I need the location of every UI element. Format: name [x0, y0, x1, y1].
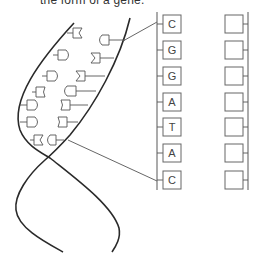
pointer-line-bottom	[68, 140, 157, 181]
blank-box	[225, 67, 248, 85]
blank-box	[225, 118, 248, 136]
base-shape	[48, 135, 57, 145]
base-shape	[36, 87, 45, 97]
svg-text:T: T	[169, 121, 176, 133]
base-box: A	[157, 144, 181, 162]
blank-box	[225, 144, 248, 162]
svg-text:G: G	[168, 44, 177, 56]
blank-box	[225, 171, 248, 189]
base-box: G	[157, 67, 181, 85]
base-box: G	[157, 41, 181, 59]
base-shape	[76, 71, 85, 81]
dna-diagram: C G G A T A C	[0, 0, 261, 263]
svg-text:C: C	[168, 18, 176, 30]
svg-text:C: C	[168, 174, 176, 186]
base-shape	[47, 71, 58, 81]
base-box: T	[157, 118, 181, 136]
svg-text:G: G	[168, 70, 177, 82]
base-shape	[73, 28, 82, 38]
blank-box	[225, 93, 248, 111]
complement-column	[225, 15, 248, 189]
base-shape	[61, 100, 70, 110]
base-box: C	[157, 171, 181, 189]
base-box: A	[157, 93, 181, 111]
base-shape	[91, 53, 100, 63]
svg-text:A: A	[168, 96, 176, 108]
base-shape	[58, 117, 67, 127]
blank-box	[225, 15, 248, 33]
sequence-column: C G G A T A C	[157, 15, 181, 189]
helix-strands	[16, 18, 130, 252]
base-shape	[27, 117, 38, 127]
blank-box	[225, 41, 248, 59]
base-shape	[34, 135, 43, 145]
base-shape	[58, 50, 69, 60]
base-shape	[27, 100, 38, 110]
base-shape	[65, 86, 77, 96]
base-shape	[100, 35, 110, 45]
svg-text:A: A	[168, 147, 176, 159]
base-box: C	[157, 15, 181, 33]
